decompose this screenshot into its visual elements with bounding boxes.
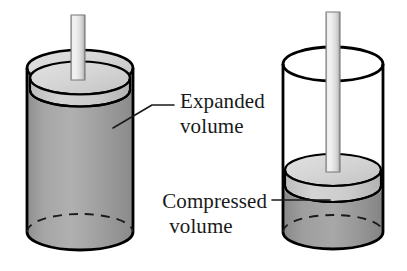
compressed-label-line1: Compressed xyxy=(137,189,267,214)
expanded-label-line2: volume xyxy=(180,114,265,139)
compressed-label-line2: volume xyxy=(137,214,267,239)
left-cylinder-expanded xyxy=(27,15,133,250)
left-piston-rod xyxy=(71,15,85,80)
right-piston-rod xyxy=(326,12,340,172)
expanded-label-line1: Expanded xyxy=(180,89,265,114)
expanded-volume-label: Expanded volume xyxy=(180,89,265,139)
right-cylinder-compressed xyxy=(283,12,383,249)
piston-cylinder-figure: Expanded volume Compressed volume xyxy=(0,0,407,271)
compressed-volume-label: Compressed volume xyxy=(137,189,267,239)
